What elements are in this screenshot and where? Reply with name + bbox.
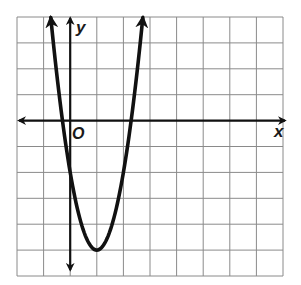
grid-lines: [17, 17, 283, 276]
origin-label: O: [72, 125, 85, 142]
coordinate-graph: x y O: [0, 0, 301, 285]
y-axis-label: y: [75, 18, 87, 37]
x-axis-label: x: [273, 122, 285, 141]
